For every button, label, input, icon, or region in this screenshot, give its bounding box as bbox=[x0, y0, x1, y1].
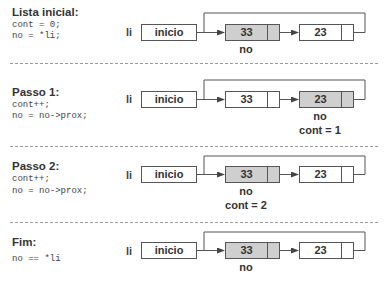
connector-lines bbox=[0, 0, 387, 287]
